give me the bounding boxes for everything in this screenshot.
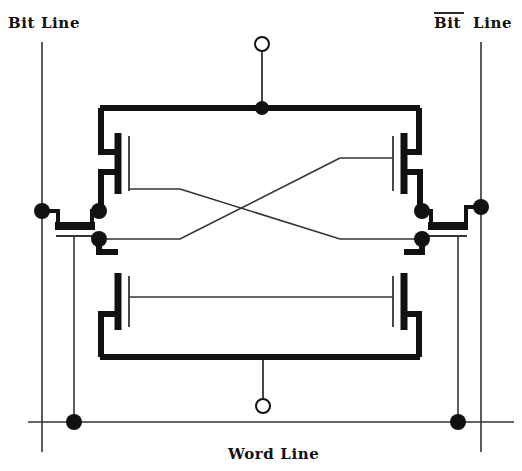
cross-link-left-gate-to-right-node [180, 189, 422, 239]
cross-link-right-gate-to-left-node [99, 158, 340, 239]
right-wordline-node [450, 414, 466, 430]
vdd-terminal-icon [255, 37, 269, 51]
left-wordline-node [66, 414, 82, 430]
gnd-terminal-icon [256, 399, 270, 413]
right-storage-lower-node [414, 231, 430, 247]
circuit-canvas: Bit Line Bit Line Word Line [0, 0, 522, 471]
sram-cell-schematic: Bit Line Bit Line Word Line [0, 0, 522, 471]
vdd-rail-node [255, 101, 269, 115]
bit-line-right-label-bit: Bit [434, 14, 461, 32]
left-storage-lower-node [91, 231, 107, 247]
left-storage-upper-node [91, 203, 107, 219]
bit-line-right-label-line: Line [473, 14, 512, 32]
right-bitline-node [473, 199, 489, 215]
word-line-label: Word Line [227, 445, 319, 463]
bit-line-left-label: Bit Line [8, 14, 80, 32]
left-bitline-node [34, 203, 50, 219]
right-storage-upper-node [414, 203, 430, 219]
